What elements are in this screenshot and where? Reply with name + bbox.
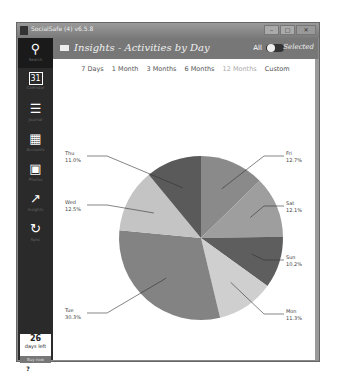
sidebar-label: Insights bbox=[18, 207, 53, 212]
toggle-label-selected: Selected bbox=[283, 43, 314, 51]
slice-value-sun: 10.2% bbox=[286, 261, 302, 267]
slice-label-wed: Wed bbox=[65, 199, 76, 205]
sidebar-item-journal[interactable]: ☰ Journal bbox=[18, 98, 53, 128]
sidebar-label: Accounts bbox=[18, 147, 53, 152]
slice-value-fri: 12.7% bbox=[286, 157, 302, 163]
list-icon: ☰ bbox=[18, 101, 53, 117]
slice-value-wed: 12.5% bbox=[65, 206, 81, 212]
sidebar-item-insights[interactable]: ↗ Insights bbox=[18, 188, 53, 218]
slice-label-tue: Tue bbox=[64, 307, 74, 313]
sidebar-label: Journal bbox=[18, 117, 53, 122]
sidebar-item-sync[interactable]: ↻ Sync bbox=[18, 218, 53, 248]
grid-icon: ▦ bbox=[18, 131, 53, 147]
sidebar-label: Photos bbox=[18, 177, 53, 182]
sidebar-item-accounts[interactable]: ▦ Accounts bbox=[18, 128, 53, 158]
pie-chart: Fri12.7%Sat12.1%Sun10.2%Mon11.3%Tue30.3%… bbox=[53, 59, 319, 362]
gear-icon[interactable]: ⚙ bbox=[39, 365, 47, 373]
all-selected-toggle[interactable] bbox=[266, 44, 284, 52]
header-bar: Insights - Activities by Day All Selecte… bbox=[53, 38, 318, 59]
sync-icon: ↻ bbox=[18, 221, 53, 237]
window-title: SocialSafe (4) v6.5.8 bbox=[31, 25, 93, 32]
calendar-icon: 31 bbox=[29, 72, 43, 85]
trial-days: 26 bbox=[20, 334, 51, 343]
chart-icon: ↗ bbox=[18, 191, 53, 207]
help-icon[interactable]: ? bbox=[24, 365, 32, 373]
back-icon[interactable] bbox=[60, 45, 69, 51]
slice-label-fri: Fri bbox=[286, 150, 292, 156]
sidebar: ⚲ Search 31 Calendar ☰ Journal ▦ Account… bbox=[18, 38, 53, 360]
scrollbar[interactable] bbox=[315, 59, 319, 360]
slice-label-sun: Sun bbox=[286, 254, 296, 260]
minimize-button[interactable]: – bbox=[264, 25, 279, 35]
slice-label-sat: Sat bbox=[286, 200, 294, 206]
slice-label-mon: Mon bbox=[286, 308, 297, 314]
sidebar-item-photos[interactable]: ▣ Photos bbox=[18, 158, 53, 188]
app-window: SocialSafe (4) v6.5.8 – □ ✕ ⚲ Search 31 … bbox=[16, 22, 320, 362]
page-title: Insights - Activities by Day bbox=[74, 42, 210, 53]
toggle-knob bbox=[267, 44, 275, 52]
slice-label-thu: Thu bbox=[64, 150, 74, 156]
sidebar-item-search[interactable]: ⚲ Search bbox=[18, 38, 53, 68]
sidebar-label: Search bbox=[18, 57, 53, 62]
sidebar-item-calendar[interactable]: 31 Calendar bbox=[18, 68, 53, 98]
slice-value-mon: 11.3% bbox=[286, 315, 302, 321]
slice-value-thu: 11.0% bbox=[65, 157, 81, 163]
trial-badge: 26 days left bbox=[20, 334, 51, 356]
sidebar-label: Calendar bbox=[18, 85, 53, 90]
app-icon bbox=[20, 26, 28, 35]
slice-value-sat: 12.1% bbox=[286, 207, 302, 213]
trial-days-label: days left bbox=[20, 343, 51, 349]
sidebar-label: Sync bbox=[18, 237, 53, 242]
slice-value-tue: 30.3% bbox=[65, 314, 81, 320]
toggle-label-all: All bbox=[253, 44, 262, 52]
photos-icon: ▣ bbox=[18, 161, 53, 177]
maximize-button[interactable]: □ bbox=[280, 25, 295, 35]
search-icon: ⚲ bbox=[18, 41, 53, 57]
buy-now-button[interactable]: Buy now bbox=[20, 356, 51, 363]
close-button[interactable]: ✕ bbox=[296, 25, 316, 35]
title-bar[interactable]: SocialSafe (4) v6.5.8 – □ ✕ bbox=[17, 23, 319, 38]
content-area: 7 Days 1 Month 3 Months 6 Months 12 Mont… bbox=[53, 59, 318, 360]
